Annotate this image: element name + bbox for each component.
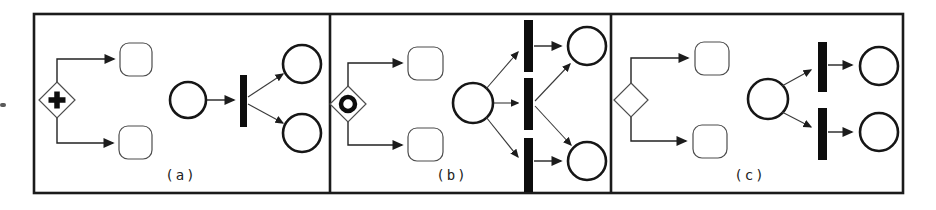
sequence-flow-bottom [57,116,113,143]
panel-c: (c) [614,42,898,183]
exclusive-xor-gateway-icon [614,83,648,117]
arc-place-to-top-bar [486,52,518,89]
figure-canvas: (a) (b) [0,0,936,210]
transition-bar-top [524,20,533,72]
transition-bar-top [818,42,827,92]
arc-bar-to-top-place [248,74,283,97]
place-output-bottom [283,114,321,152]
task-node-bottom [408,128,443,161]
arc-bar-to-bottom-place [248,104,283,123]
task-node-bottom [119,126,152,159]
place-output-top [283,45,321,83]
sequence-flow-top [57,59,114,84]
transition-bar-bottom [524,138,533,192]
panel-c-label: (c) [734,167,765,183]
place-output-bottom [568,142,606,180]
task-node-top [695,42,729,75]
sequence-flow-bottom [631,115,686,141]
gateway-petri-net-diagram: (a) (b) [0,0,936,210]
arc-middle-bar-to-top-place [535,64,570,101]
task-node-top [408,47,443,80]
transition-bar-bottom [818,108,827,160]
task-node-bottom [693,125,727,158]
sequence-flow-bottom [348,120,402,145]
place-output-top [860,47,898,85]
place-input [170,82,206,118]
panel-b: (b) [330,20,606,192]
sequence-flow-top [631,58,688,85]
place-output-top [568,27,606,65]
arc-middle-bar-to-bottom-place [535,106,571,145]
sequence-flow-top [348,63,402,88]
scan-artifact [0,103,6,107]
panel-a-label: (a) [165,167,196,183]
arc-place-to-bottom-bar [782,112,811,127]
panel-a: (a) [39,43,321,183]
place-input [453,83,493,123]
arc-place-to-top-bar [782,70,811,86]
circle-marker-icon [341,97,355,111]
panel-b-label: (b) [436,167,467,183]
transition-bar-middle [524,78,533,130]
transition-bar [240,75,247,127]
place-input [748,79,788,119]
place-output-bottom [860,113,898,151]
arc-place-to-bottom-bar [486,117,518,157]
task-node-top [120,43,152,76]
